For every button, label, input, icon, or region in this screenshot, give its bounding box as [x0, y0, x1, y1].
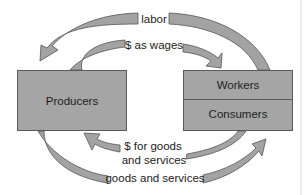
circular-flow-diagram: Producers Workers Consumers labor $ as w…	[0, 0, 308, 195]
payment-arrow-left-segment	[84, 133, 120, 152]
goods-arrow-right-segment	[203, 139, 266, 183]
wages-arrow-right-segment	[183, 44, 222, 68]
consumers-label: Consumers	[209, 108, 268, 120]
wages-label: $ as wages	[125, 39, 183, 51]
payment-label-line2: and services	[122, 154, 187, 166]
wages-arrow-left-segment	[70, 40, 125, 70]
producers-label: Producers	[46, 95, 99, 107]
households-node: Workers Consumers	[184, 71, 293, 131]
labor-label: labor	[141, 13, 167, 25]
workers-label: Workers	[217, 79, 260, 91]
producers-node: Producers	[18, 71, 127, 131]
payment-label-line1: $ for goods	[124, 140, 182, 152]
payment-arrow-right-segment	[186, 131, 246, 159]
goods-label: goods and services	[105, 172, 204, 184]
